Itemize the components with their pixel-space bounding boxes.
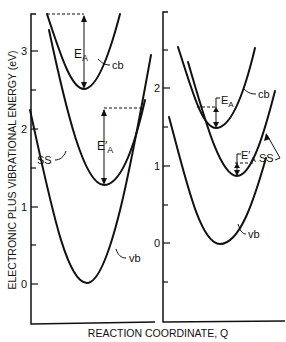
right-ea-prime-label: E′A bbox=[241, 149, 256, 164]
left-tick-3: 3 bbox=[21, 45, 27, 57]
left-cb-label: cb bbox=[112, 59, 124, 71]
right-tick-2: 2 bbox=[154, 82, 160, 94]
left-axis bbox=[31, 14, 155, 324]
left-vb-label: vb bbox=[129, 252, 141, 264]
left-ea-label: EA bbox=[74, 47, 88, 63]
right-ea-label: EA bbox=[221, 94, 234, 109]
y-axis-label: ELECTRONIC PLUS VIBRATIONAL ENERGY (eV) bbox=[6, 50, 18, 289]
right-cb-label: cb bbox=[258, 88, 270, 100]
left-tick-1: 1 bbox=[21, 201, 27, 213]
right-vb-label: vb bbox=[248, 228, 260, 240]
right-panel: 2 1 0 EA E′A cb SS vb bbox=[154, 12, 285, 322]
right-vb-curve bbox=[169, 117, 266, 244]
left-tick-0: 0 bbox=[21, 278, 27, 290]
left-ea-prime-label: E′A bbox=[97, 139, 113, 155]
right-tick-1: 1 bbox=[154, 160, 160, 172]
right-ss-label: SS bbox=[259, 152, 274, 164]
left-panel: 3 2 1 0 EA E′A cb SS vb bbox=[21, 14, 155, 324]
left-tick-2: 2 bbox=[21, 123, 27, 135]
left-vb-curve bbox=[30, 55, 151, 283]
right-tick-0: 0 bbox=[154, 237, 160, 249]
energy-diagram: ELECTRONIC PLUS VIBRATIONAL ENERGY (eV) … bbox=[0, 0, 286, 342]
left-ss-label: SS bbox=[37, 154, 52, 166]
x-axis-label: REACTION COORDINATE, Q bbox=[88, 327, 228, 339]
